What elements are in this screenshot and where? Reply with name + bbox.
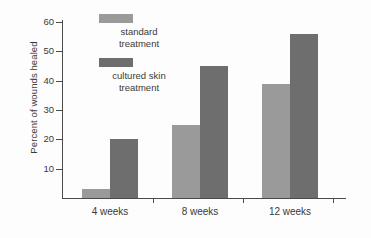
legend-label-standard-line1: standard <box>93 26 185 38</box>
bar-4-weeks-standard-treatment <box>82 189 110 198</box>
y-tick-label-40: 40 <box>14 75 54 86</box>
y-tick-label-wrap-10: 10 <box>10 169 54 170</box>
legend-label-cultured-line1: cultured skin <box>93 70 185 82</box>
legend-entry-standard: standard treatment <box>93 14 203 49</box>
legend-swatch-standard <box>99 14 133 23</box>
bar-8-weeks-cultured-skin-treatment <box>200 66 228 198</box>
y-tick-label-20: 20 <box>14 133 54 144</box>
bar-4-weeks-cultured-skin-treatment <box>110 139 138 198</box>
y-tick-label-wrap-30: 30 <box>10 110 54 111</box>
y-tick-label-30: 30 <box>14 104 54 115</box>
x-group-label-8-weeks: 8 weeks <box>155 206 245 217</box>
y-tick-label-wrap-40: 40 <box>10 81 54 82</box>
legend: standard treatment cultured skin treatme… <box>93 14 203 102</box>
bar-12-weeks-standard-treatment <box>262 84 290 198</box>
y-tick-label-50: 50 <box>14 45 54 56</box>
y-axis-title: Percent of wounds healed <box>28 18 39 178</box>
y-tick-label-wrap-50: 50 <box>10 51 54 52</box>
legend-entry-cultured-skin: cultured skin treatment <box>93 58 203 93</box>
y-tick-label-wrap-20: 20 <box>10 139 54 140</box>
bar-8-weeks-standard-treatment <box>172 125 200 198</box>
bar-chart: Percent of wounds healed 102030405060 4 … <box>0 0 371 238</box>
y-tick-label-10: 10 <box>14 163 54 174</box>
legend-label-standard-line2: treatment <box>93 38 185 50</box>
x-group-label-12-weeks: 12 weeks <box>245 206 335 217</box>
bar-12-weeks-cultured-skin-treatment <box>290 34 318 198</box>
y-tick-label-wrap-60: 60 <box>10 22 54 23</box>
legend-label-cultured-line2: treatment <box>93 82 185 94</box>
x-group-label-4-weeks: 4 weeks <box>65 206 155 217</box>
y-tick-label-60: 60 <box>14 16 54 27</box>
legend-swatch-cultured-skin <box>99 58 133 67</box>
